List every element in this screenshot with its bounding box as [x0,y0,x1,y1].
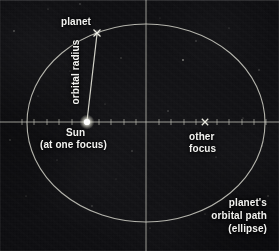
stars-group [9,3,268,228]
label-orbital-path-line2: orbital path [211,209,267,222]
orbit-diagram-figure: planet orbital radius Sun (at one focus)… [0,0,279,251]
label-sun: Sun [66,127,85,139]
label-orbital-radius: orbital radius [70,40,82,105]
label-sun-focus-note: (at one focus) [40,139,107,151]
orbital-radius-line [87,34,97,121]
label-orbital-path-line3: (ellipse) [211,222,267,235]
planet-glow [94,30,100,36]
label-orbital-path-group: planet's orbital path (ellipse) [211,196,267,235]
label-orbital-path-line1: planet's [211,196,267,209]
sun-marker [84,119,90,125]
label-planet: planet [61,16,91,28]
label-other-focus-line1: other [189,131,215,143]
label-other-focus-line2: focus [189,143,216,155]
